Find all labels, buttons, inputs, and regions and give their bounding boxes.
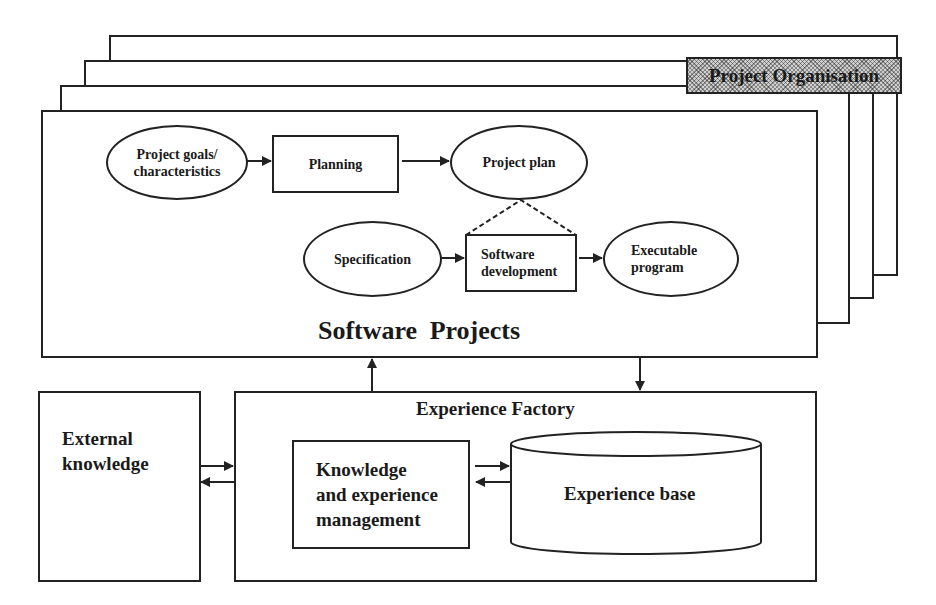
planning-label: Planning xyxy=(309,156,363,173)
software-projects-title: Software Projects xyxy=(318,316,520,346)
software-development-line-2: development xyxy=(481,263,557,280)
node-project-plan: Project plan xyxy=(450,125,588,200)
management-line-2: and experience xyxy=(316,482,438,507)
management-line-1: Knowledge xyxy=(316,457,438,482)
project-goals-line-1: Project goals/ xyxy=(133,146,220,163)
experience-factory-title: Experience Factory xyxy=(416,398,575,420)
management-line-3: management xyxy=(316,507,438,532)
node-specification: Specification xyxy=(303,221,442,297)
node-project-goals: Project goals/ characteristics xyxy=(106,125,248,200)
executable-program-line-2: program xyxy=(631,259,697,276)
specification-label: Specification xyxy=(334,251,411,268)
knowledge-management-box: Knowledge and experience management xyxy=(292,440,470,549)
experience-base-label: Experience base xyxy=(564,481,695,506)
project-plan-label: Project plan xyxy=(482,154,555,171)
software-development-line-1: Software xyxy=(481,246,557,263)
dashed-plan-to-development xyxy=(466,200,576,235)
executable-program-line-1: Executable xyxy=(631,242,697,259)
project-goals-line-2: characteristics xyxy=(133,163,220,180)
node-planning: Planning xyxy=(272,135,399,193)
external-knowledge-line-1: External xyxy=(62,426,149,451)
external-knowledge-line-2: knowledge xyxy=(62,451,149,476)
node-executable-program: Executable program xyxy=(603,221,739,297)
external-knowledge-box: External knowledge xyxy=(38,391,201,582)
node-software-development: Software development xyxy=(465,234,577,292)
